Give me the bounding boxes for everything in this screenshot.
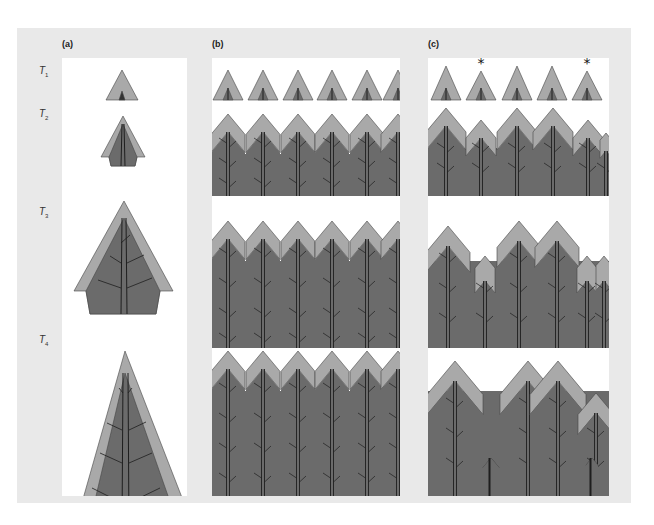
panel-label-b: (b) bbox=[212, 39, 224, 49]
tree-t1 bbox=[106, 70, 138, 100]
panel-c-drawing: ** bbox=[428, 58, 609, 496]
tree-t2 bbox=[101, 116, 145, 166]
panel-b-uniform-stand bbox=[212, 58, 400, 496]
row-label-t2: T2 bbox=[39, 108, 48, 121]
panel-label-c: (c) bbox=[428, 39, 439, 49]
asterisk-annotation: * bbox=[478, 58, 485, 71]
panel-a-drawing bbox=[62, 58, 187, 496]
row-label-t1: T1 bbox=[39, 65, 48, 78]
figure-background: (a) (b) (c) T1 T2 T3 T4 bbox=[17, 28, 631, 503]
row-label-t4: T4 bbox=[39, 334, 48, 347]
tree-t3 bbox=[74, 201, 173, 314]
tree-t4 bbox=[79, 351, 187, 496]
panel-label-a: (a) bbox=[62, 39, 73, 49]
asterisk-annotation: * bbox=[584, 58, 591, 71]
panel-c-differentiated-stand: ** bbox=[428, 58, 609, 496]
panel-b-drawing bbox=[212, 58, 400, 496]
row-label-t3: T3 bbox=[39, 206, 48, 219]
panel-a-single-tree bbox=[62, 58, 187, 496]
